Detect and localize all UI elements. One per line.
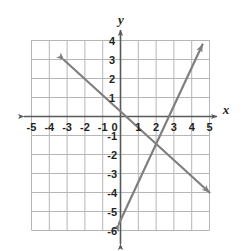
x-tick-4: 4 xyxy=(189,121,196,133)
y-tick-neg4: -4 xyxy=(107,187,118,199)
y-tick-neg2: -2 xyxy=(107,149,117,161)
coordinate-graph: -5 -4 -3 -2 -1 0 1 2 3 4 5 4 3 2 1 -1 -2… xyxy=(0,0,241,251)
y-tick-neg1: -1 xyxy=(107,130,117,142)
graph-canvas: -5 -4 -3 -2 -1 0 1 2 3 4 5 4 3 2 1 -1 -2… xyxy=(0,0,241,251)
x-tick-3: 3 xyxy=(171,121,177,133)
x-tick-5: 5 xyxy=(206,121,212,133)
y-tick-4: 4 xyxy=(109,35,116,47)
x-tick-neg5: -5 xyxy=(27,121,37,133)
y-tick-neg6: -6 xyxy=(107,225,117,237)
x-tick-neg4: -4 xyxy=(44,121,55,133)
x-tick-neg1: -1 xyxy=(98,121,108,133)
x-tick-2: 2 xyxy=(153,121,159,133)
x-tick-neg3: -3 xyxy=(62,121,72,133)
y-tick-1: 1 xyxy=(109,92,115,104)
x-tick-neg2: -2 xyxy=(80,121,90,133)
y-tick-2: 2 xyxy=(109,73,115,85)
y-tick-neg5: -5 xyxy=(107,206,117,218)
y-tick-neg3: -3 xyxy=(107,168,117,180)
y-tick-3: 3 xyxy=(109,54,115,66)
x-tick-1: 1 xyxy=(135,121,141,133)
y-axis-label: y xyxy=(116,12,124,27)
x-axis-label: x xyxy=(222,102,230,117)
